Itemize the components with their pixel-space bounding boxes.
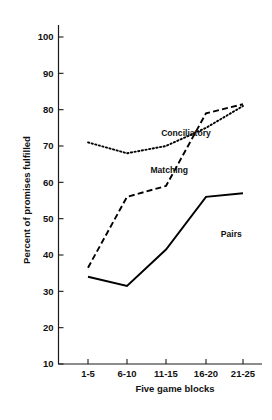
series-label-pairs: Pairs (221, 229, 242, 239)
y-tick-label: 80 (43, 104, 54, 115)
x-axis-title: Five game blocks (135, 383, 214, 394)
y-tick-label: 70 (43, 140, 54, 151)
y-tick-label: 60 (43, 177, 54, 188)
y-tick-label: 100 (38, 31, 54, 42)
chart-figure: 102030405060708090100 1-56-1011-1516-202… (0, 0, 272, 420)
x-tick-label: 6-10 (117, 368, 136, 379)
x-tick-label: 1-5 (81, 368, 95, 379)
x-tick-label: 16-20 (194, 368, 218, 379)
y-tick-label: 10 (43, 358, 54, 369)
y-tick-label: 90 (43, 68, 54, 79)
y-tick-label: 30 (43, 286, 54, 297)
series-label-matching: Matching (150, 165, 188, 175)
y-tick-label: 40 (43, 249, 54, 260)
x-tick-label: 21-25 (231, 368, 256, 379)
x-axis-tick-marks (88, 359, 243, 364)
y-axis-tick-labels: 102030405060708090100 (38, 31, 54, 369)
y-axis-title: Percent of promises fulfilled (21, 136, 32, 264)
y-axis-tick-marks (59, 37, 64, 364)
y-tick-label: 20 (43, 322, 54, 333)
series-label-conciliatory: Conciliatory (161, 128, 211, 138)
x-tick-label: 11-15 (154, 368, 178, 379)
series-inline-labels: ConciliatoryMatchingPairs (150, 128, 242, 239)
x-axis-tick-labels: 1-56-1011-1516-2021-25 (81, 368, 256, 379)
line-chart-canvas: 102030405060708090100 1-56-1011-1516-202… (0, 0, 272, 420)
series-line-pairs (88, 193, 243, 286)
y-tick-label: 50 (43, 213, 54, 224)
